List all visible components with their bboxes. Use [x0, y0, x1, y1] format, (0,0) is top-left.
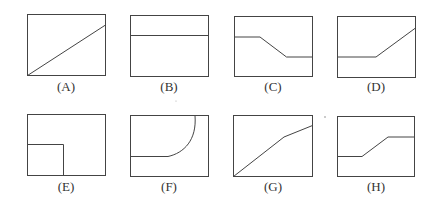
panel-b-frame	[131, 16, 209, 77]
panel-h-curve	[338, 137, 415, 157]
panel-b-label: (B)	[139, 80, 199, 94]
panel-d	[338, 17, 416, 78]
panel-g-label: (G)	[243, 180, 303, 194]
panel-b	[131, 16, 209, 77]
panel-a-frame	[28, 15, 106, 76]
panel-e-label: (E)	[36, 180, 96, 194]
panel-d-label: (D)	[346, 80, 406, 94]
panel-f-curve	[131, 116, 196, 157]
panel-f-frame	[131, 116, 209, 177]
panel-c	[235, 17, 313, 77]
panel-a-label: (A)	[36, 80, 96, 94]
panel-f-label: (F)	[139, 180, 199, 194]
speck-mark	[324, 116, 326, 118]
panel-a	[28, 15, 106, 76]
panel-d-frame	[338, 17, 416, 78]
panel-e-curve	[28, 145, 64, 176]
panel-g	[234, 116, 313, 177]
panel-g-curve	[234, 126, 313, 177]
panel-c-frame	[235, 17, 313, 77]
panel-h	[338, 117, 415, 177]
panel-f	[131, 116, 209, 177]
panel-c-curve	[235, 37, 313, 57]
panel-h-label: (H)	[346, 180, 406, 194]
panel-d-curve	[338, 28, 416, 57]
figure-canvas	[0, 0, 439, 204]
panel-a-curve	[28, 25, 106, 76]
panel-e	[28, 115, 106, 176]
panel-c-label: (C)	[243, 80, 303, 94]
speck-mark	[175, 100, 176, 101]
